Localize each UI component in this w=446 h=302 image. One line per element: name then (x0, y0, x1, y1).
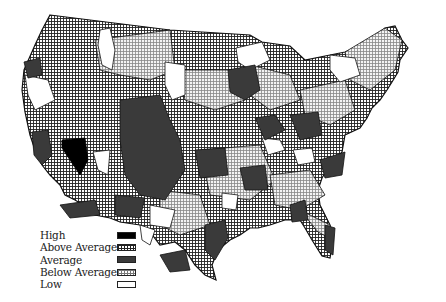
legend-label: Average (40, 254, 82, 266)
region-average (205, 220, 228, 260)
legend-label: Low (40, 278, 62, 290)
legend-item-above-average: Above Average (40, 241, 136, 253)
legend-item-below-average: Below Average (40, 266, 136, 278)
legend-swatch-below-average (117, 269, 136, 276)
legend-label: High (40, 229, 65, 241)
region-average (240, 165, 268, 190)
map-legend: High Above Average Average Below Average… (40, 229, 136, 290)
region-average (60, 200, 100, 218)
legend-label: Below Average (40, 266, 117, 278)
legend-swatch-high (117, 232, 136, 239)
region-average (195, 148, 228, 178)
region-low (222, 193, 238, 210)
legend-swatch-average (117, 256, 136, 263)
region-average (115, 195, 145, 218)
legend-item-high: High (40, 229, 136, 241)
legend-item-low: Low (40, 278, 136, 290)
legend-swatch-above-average (117, 244, 136, 251)
legend-swatch-low (117, 281, 136, 288)
legend-item-average: Average (40, 254, 136, 266)
region-average (325, 225, 335, 255)
region-average (160, 250, 190, 272)
legend-label: Above Average (40, 241, 117, 253)
